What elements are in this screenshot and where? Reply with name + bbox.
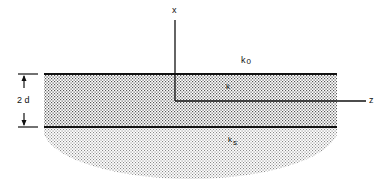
- x-axis-label: x: [172, 5, 177, 15]
- thickness-label: 2 d: [17, 95, 30, 105]
- substrate-index-label: ks: [228, 135, 237, 144]
- film-index-label: k: [226, 82, 230, 91]
- z-axis-label: z: [369, 95, 374, 105]
- cover-index-label: k0: [241, 55, 251, 65]
